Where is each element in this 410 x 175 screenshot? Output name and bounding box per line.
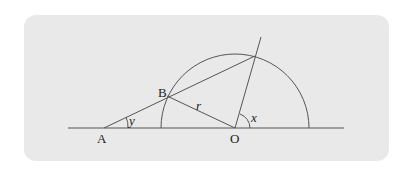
label-y: y	[127, 113, 135, 128]
line-O-C	[235, 37, 261, 128]
geometry-diagram: A B O r x y	[0, 0, 410, 175]
label-O: O	[230, 131, 239, 146]
angle-x-arc	[240, 114, 250, 128]
label-A: A	[97, 131, 107, 146]
angle-y-arc	[126, 117, 128, 128]
label-r: r	[196, 98, 202, 113]
label-x: x	[250, 110, 257, 125]
label-B: B	[158, 85, 167, 100]
line-A-C	[104, 56, 255, 128]
